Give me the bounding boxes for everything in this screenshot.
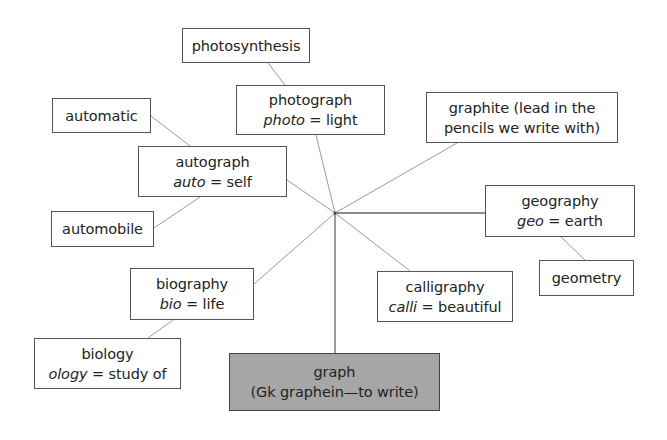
- node-word: automatic: [65, 106, 137, 126]
- node-subtext: (Gk graphein—to write): [250, 382, 418, 402]
- node-geometry: geometry: [539, 260, 634, 296]
- root-meaning: self: [227, 174, 252, 190]
- link-hub-biography: [254, 213, 335, 284]
- root-morpheme: photo: [263, 112, 304, 128]
- node-definition: calli = beautiful: [389, 297, 502, 317]
- root-morpheme: calli: [389, 299, 417, 315]
- node-word: automobile: [62, 219, 143, 239]
- root-meaning: beautiful: [438, 299, 501, 315]
- node-graph: graph(Gk graphein—to write): [229, 353, 440, 411]
- node-word: calligraphy: [406, 277, 485, 297]
- link-hub-calligraphy: [335, 213, 410, 271]
- root-morpheme: geo: [517, 213, 544, 229]
- node-automobile: automobile: [51, 211, 154, 247]
- node-word: biography: [156, 274, 228, 294]
- equals-sign: =: [417, 299, 438, 315]
- node-definition: photo = light: [263, 110, 357, 130]
- link-photograph-photosynthesis: [268, 63, 285, 85]
- root-meaning: light: [326, 112, 358, 128]
- node-word: geography: [521, 191, 598, 211]
- node-photosynthesis: photosynthesis: [182, 28, 310, 63]
- node-automatic: automatic: [52, 98, 151, 133]
- node-geography: geographygeo = earth: [485, 185, 635, 237]
- node-definition: bio = life: [160, 294, 225, 314]
- root-morpheme: auto: [173, 174, 205, 190]
- node-word: photograph: [269, 90, 352, 110]
- node-biography: biographybio = life: [130, 268, 254, 320]
- hub-point: [334, 212, 337, 215]
- link-autograph-automatic: [151, 116, 190, 146]
- link-biography-biology: [148, 320, 173, 338]
- node-definition: ology = study of: [48, 364, 166, 384]
- root-morpheme: ology: [48, 366, 87, 382]
- node-word: photosynthesis: [192, 36, 301, 56]
- link-geography-geometry: [561, 237, 585, 260]
- equals-sign: =: [305, 112, 326, 128]
- node-calligraphy: calligraphycalli = beautiful: [377, 271, 513, 322]
- equals-sign: =: [182, 296, 203, 312]
- node-biology: biologyology = study of: [34, 338, 181, 389]
- link-hub-graphite: [335, 143, 457, 213]
- node-graphite: graphite (lead in thepencils we write wi…: [426, 92, 618, 143]
- link-autograph-automobile: [154, 197, 200, 228]
- node-word: graph: [314, 362, 356, 382]
- node-word: geometry: [552, 268, 621, 288]
- node-definition: geo = earth: [517, 211, 603, 231]
- root-morpheme: bio: [160, 296, 182, 312]
- equals-sign: =: [205, 174, 226, 190]
- root-meaning: earth: [565, 213, 603, 229]
- equals-sign: =: [87, 366, 108, 382]
- node-definition: auto = self: [173, 172, 252, 192]
- node-photograph: photographphoto = light: [236, 85, 385, 135]
- node-subtext: pencils we write with): [444, 118, 600, 138]
- root-meaning: life: [203, 296, 225, 312]
- node-word: biology: [81, 344, 133, 364]
- node-word: autograph: [175, 152, 249, 172]
- root-meaning: study of: [109, 366, 167, 382]
- node-autograph: autographauto = self: [138, 146, 287, 197]
- node-word: graphite (lead in the: [449, 98, 596, 118]
- equals-sign: =: [544, 213, 565, 229]
